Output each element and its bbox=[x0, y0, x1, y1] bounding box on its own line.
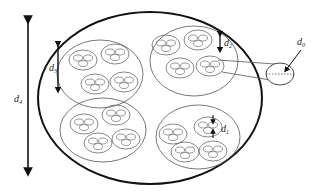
d0-cross-section bbox=[266, 63, 294, 85]
d3-label: d3 bbox=[49, 62, 57, 74]
d0-label: d0 bbox=[297, 36, 305, 48]
d4-label: d4 bbox=[14, 93, 22, 105]
d1-label: d1 bbox=[221, 123, 229, 135]
diagram-canvas: d4 d3 d2 d0 bbox=[0, 0, 320, 191]
cluster-bottom-right bbox=[156, 105, 240, 169]
d0-pointer-arrow bbox=[286, 50, 301, 70]
